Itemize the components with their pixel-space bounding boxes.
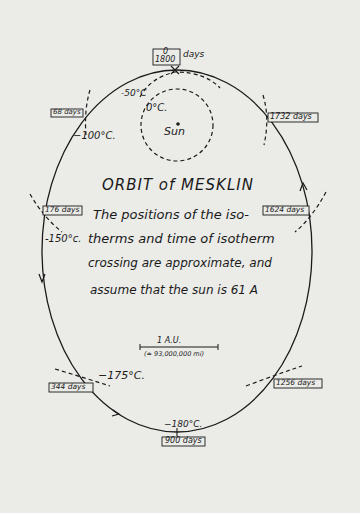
isotherm-label-minus100: −100°C. — [73, 130, 116, 141]
scale-bar-sublabel: (≐ 93,000,000 mi) — [144, 350, 204, 358]
marker-900-days: 900 days — [165, 436, 202, 445]
marker-176-days: 176 days — [45, 205, 79, 214]
isotherm-label-minus180: −180°C. — [164, 419, 202, 429]
marker-days-suffix: days — [183, 49, 204, 59]
scale-bar-label: 1 A.U. — [157, 336, 181, 345]
marker-344-days: 344 days — [51, 382, 85, 391]
note-line-4: assume that the sun is 61 A — [90, 283, 258, 297]
isotherm-minus100-arc-right — [263, 95, 267, 145]
marker-1256-days: 1256 days — [276, 378, 315, 387]
marker-1732-days: 1732 days — [270, 112, 312, 121]
isotherm-label-minus150: -150°c. — [45, 233, 81, 244]
note-line-3: crossing are approximate, and — [88, 256, 272, 270]
sun-label: Sun — [164, 125, 185, 138]
isotherm-label-minus50: -50°C — [121, 88, 146, 98]
isotherm-minus50-arc — [140, 72, 220, 97]
diagram-title: ORBIT of MESKLIN — [102, 176, 254, 194]
note-line-2: therms and time of isotherm — [88, 231, 275, 246]
marker-1800: 1800 — [155, 55, 175, 64]
isotherm-label-0c: 0°C. — [146, 102, 168, 113]
note-line-1: The positions of the iso- — [93, 207, 249, 222]
isotherm-label-minus175: −175°C. — [98, 369, 145, 382]
marker-68-days: 68 days — [53, 108, 81, 116]
marker-1624-days: 1624 days — [265, 205, 304, 214]
